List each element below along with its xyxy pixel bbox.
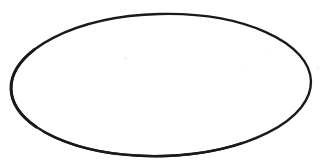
figure-canvas — [0, 0, 331, 166]
ellipse-figure — [0, 0, 331, 166]
